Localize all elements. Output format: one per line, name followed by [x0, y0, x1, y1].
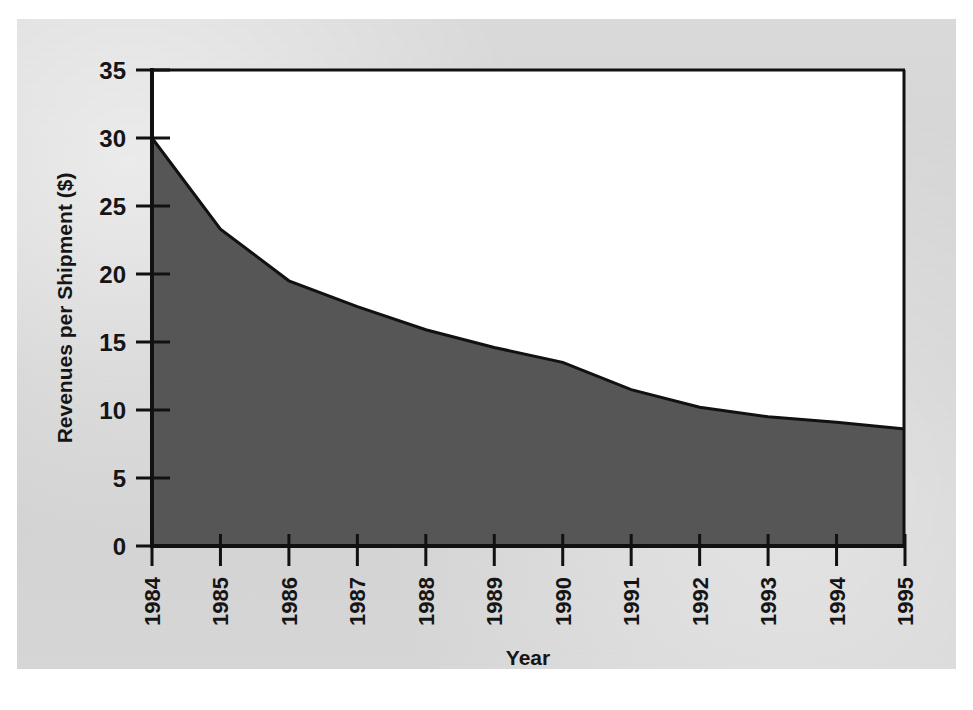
y-axis-tick-labels: 05101520253035 — [99, 57, 126, 560]
x-tick-label: 1993 — [756, 577, 781, 626]
x-tick-label: 1986 — [277, 577, 302, 626]
x-tick-label: 1992 — [688, 577, 713, 626]
x-tick-label: 1987 — [345, 577, 370, 626]
x-tick-label: 1994 — [825, 576, 850, 626]
y-tick-label: 5 — [113, 465, 126, 492]
y-tick-label: 10 — [99, 397, 126, 424]
y-axis-title: Revenues per Shipment ($) — [53, 173, 76, 444]
x-axis-title: Year — [506, 646, 550, 669]
x-axis-tick-labels: 1984198519861987198819891990199119921993… — [140, 576, 918, 626]
x-tick-label: 1985 — [208, 577, 233, 626]
x-tick-label: 1984 — [140, 576, 165, 626]
x-tick-label: 1989 — [482, 577, 507, 626]
x-tick-label: 1990 — [551, 577, 576, 626]
y-tick-label: 0 — [113, 533, 126, 560]
y-tick-label: 30 — [99, 125, 126, 152]
area-chart: 05101520253035 1984198519861987198819891… — [0, 0, 973, 710]
x-tick-label: 1988 — [414, 577, 439, 626]
y-tick-label: 20 — [99, 261, 126, 288]
y-tick-label: 25 — [99, 193, 126, 220]
x-tick-label: 1991 — [619, 577, 644, 626]
x-tick-label: 1995 — [893, 577, 918, 626]
chart-figure: 05101520253035 1984198519861987198819891… — [0, 0, 973, 710]
y-tick-label: 35 — [99, 57, 126, 84]
y-tick-label: 15 — [99, 329, 126, 356]
